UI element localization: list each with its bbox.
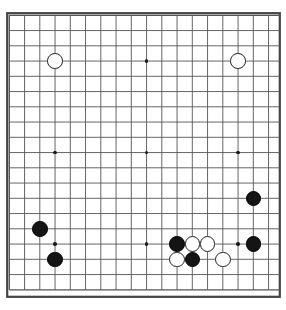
black-stone-r4[interactable] <box>246 236 262 252</box>
star-point <box>53 151 56 154</box>
black-stone-n3[interactable] <box>185 252 201 268</box>
star-point <box>53 242 56 245</box>
white-stone-o4[interactable] <box>200 236 216 252</box>
star-point <box>145 242 148 245</box>
white-stone-m3[interactable] <box>169 252 185 268</box>
black-stone-m4[interactable] <box>169 236 185 252</box>
white-stone-p3[interactable] <box>215 252 231 268</box>
black-stone-r7[interactable] <box>246 191 262 207</box>
star-point <box>236 151 239 154</box>
white-stone-q16[interactable] <box>230 53 246 69</box>
star-point <box>145 59 148 62</box>
black-stone-c5[interactable] <box>32 221 48 237</box>
black-stone-d3[interactable] <box>47 252 63 268</box>
white-stone-n4[interactable] <box>185 236 201 252</box>
white-stone-d16[interactable] <box>47 53 63 69</box>
go-board-surface[interactable] <box>6 12 281 298</box>
star-point <box>236 242 239 245</box>
go-board-container <box>0 0 286 310</box>
